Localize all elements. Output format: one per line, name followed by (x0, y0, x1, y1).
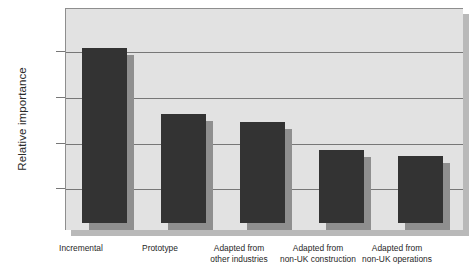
x-category-line: Adapted from (350, 243, 444, 254)
y-tick-mark-high (56, 51, 65, 52)
x-category-line: non-UK operations (350, 254, 444, 265)
y-axis-title: Relative importance (16, 34, 28, 204)
bar-prototype (161, 114, 215, 230)
plot-area (65, 8, 463, 230)
bar-chart: Relative importance Highest High Average… (0, 0, 475, 276)
bar-body-incremental (82, 48, 127, 223)
bar-adapted-non-uk-construction (319, 150, 373, 230)
bar-body-adapted-non-uk-construction (319, 150, 364, 223)
y-tick-mark-average (56, 97, 65, 98)
bar-body-adapted-other-industries (240, 122, 285, 223)
bar-body-adapted-non-uk-operations (398, 156, 443, 223)
bar-body-prototype (161, 114, 206, 223)
bar-adapted-other-industries (240, 122, 294, 230)
x-category-label-adapted-non-uk-operations: Adapted from non-UK operations (350, 243, 444, 265)
bar-adapted-non-uk-operations (398, 156, 452, 230)
y-tick-mark-low (56, 143, 65, 144)
y-tick-mark-lowest (56, 188, 65, 189)
bar-incremental (82, 48, 136, 230)
